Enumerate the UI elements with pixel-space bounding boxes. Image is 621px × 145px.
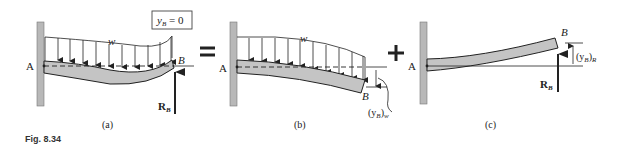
label-w: w (300, 32, 308, 44)
panel-a: A B w RB yB = 0 (a) (26, 11, 194, 131)
condition-text: yB = 0 (156, 14, 184, 28)
point-a (236, 66, 239, 69)
label-b: B (561, 26, 568, 38)
deflection-label: (yB)w (368, 107, 389, 120)
reaction-label: RB (540, 78, 553, 92)
panel-b: A B w (yB)w (b) (219, 22, 392, 131)
point-a (426, 65, 429, 68)
panel-label-b: (b) (294, 119, 306, 131)
equals-sign (200, 48, 215, 55)
label-b: B (362, 90, 369, 102)
label-a: A (408, 60, 416, 72)
plus-sign (388, 45, 404, 61)
figure-caption: Fig. 8.34 (25, 134, 61, 144)
wall-support (230, 22, 237, 106)
point-a (43, 65, 46, 68)
panel-label-a: (a) (102, 119, 113, 131)
panel-c: A B RB (yB)R (c) (408, 22, 597, 131)
wall-support (420, 22, 427, 104)
superposition-figure: A B w RB yB = 0 (a) (0, 0, 621, 145)
wall-support (37, 22, 44, 106)
label-a: A (219, 62, 227, 74)
label-w: w (108, 35, 116, 47)
beam-deflected (237, 60, 365, 93)
reaction-label: RB (158, 100, 171, 114)
panel-label-c: (c) (485, 119, 496, 131)
label-a: A (26, 60, 34, 72)
label-b: B (178, 54, 185, 66)
deflection-label: (yB)R (576, 51, 597, 64)
